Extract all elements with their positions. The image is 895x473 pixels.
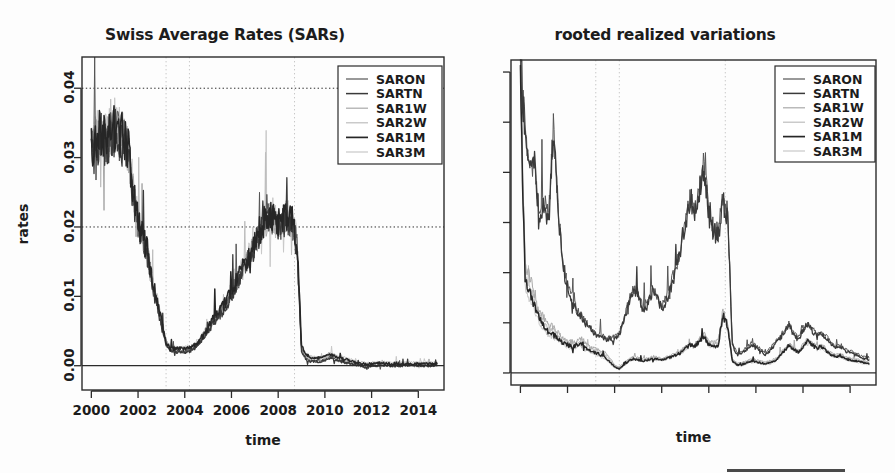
- x-tick-label: 2008: [252, 402, 304, 418]
- y-tick-label: 0.00: [61, 330, 77, 400]
- y-tick-label: 0.04: [61, 52, 77, 122]
- legend-label: SAR2W: [813, 115, 864, 130]
- y-tick-label: 0.03: [61, 122, 77, 192]
- legend-label: SAR2W: [376, 115, 427, 130]
- y-tick-label: 0.01: [61, 260, 77, 330]
- legend-label: SAR3M: [813, 144, 862, 159]
- x-tick-label: 2014: [392, 402, 444, 418]
- legend-label: SARON: [376, 72, 425, 87]
- legend-label: SAR1M: [813, 129, 862, 144]
- left-x-axis-title: time: [82, 432, 444, 448]
- legend-label: SARON: [813, 72, 862, 87]
- x-tick-label: 2000: [65, 402, 117, 418]
- left-y-axis-title: rates: [15, 194, 31, 254]
- legend-label: SARTN: [813, 86, 860, 101]
- legend-label: SAR1M: [376, 130, 425, 145]
- right-x-axis-title: time: [511, 429, 876, 445]
- x-tick-label: 2010: [299, 402, 351, 418]
- x-tick-label: 2012: [346, 402, 398, 418]
- legend-label: SAR1W: [813, 100, 864, 115]
- legend-label: SAR3M: [376, 145, 425, 160]
- x-tick-label: 2004: [159, 402, 211, 418]
- figure-canvas: Swiss Average Rates (SARs) SARONSARTNSAR…: [0, 0, 895, 473]
- legend-label: SAR1W: [376, 101, 427, 116]
- right-plot-area: SARONSARTNSAR1WSAR2WSAR1MSAR3M: [445, 0, 895, 473]
- y-tick-label: 0.02: [61, 191, 77, 261]
- x-tick-label: 2006: [205, 402, 257, 418]
- panel-swiss-average-rates: Swiss Average Rates (SARs) SARONSARTNSAR…: [0, 0, 450, 473]
- x-tick-label: 2002: [112, 402, 164, 418]
- footer-rule-artifact: [727, 469, 845, 472]
- legend-label: SARTN: [376, 86, 423, 101]
- panel-rooted-realized-variations: rooted realized variations SARONSARTNSAR…: [445, 0, 895, 473]
